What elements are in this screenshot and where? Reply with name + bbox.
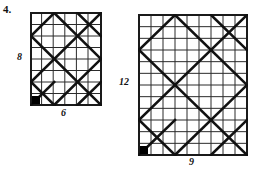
problem-number: 4.: [3, 3, 11, 15]
large-grid-figure: [138, 14, 248, 156]
large-grid-corner-marker: [140, 146, 148, 154]
small-grid-height-label: 8: [17, 51, 22, 62]
small-grid-width-label: 6: [61, 107, 66, 118]
small-grid-svg: [30, 12, 102, 106]
figure-canvas: 4.: [0, 0, 257, 170]
small-grid-figure: [30, 12, 102, 106]
large-grid-width-label: 9: [189, 156, 194, 167]
large-grid-height-label: 12: [119, 76, 129, 87]
large-grid-svg: [138, 14, 248, 156]
small-grid-corner-marker: [32, 96, 40, 104]
